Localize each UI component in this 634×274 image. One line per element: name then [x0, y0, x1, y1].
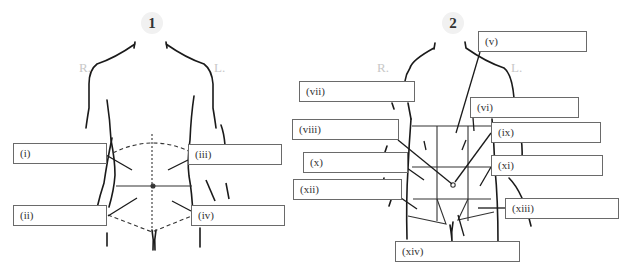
label-xii: (xii): [300, 183, 319, 195]
label-box-vi[interactable]: (vi): [470, 97, 579, 118]
label-box-x[interactable]: (x): [303, 152, 408, 173]
label-viii: (viii): [299, 123, 321, 135]
label-box-vii[interactable]: (vii): [299, 81, 415, 102]
figure-2-right-side-label: R.: [377, 60, 389, 76]
label-xiv: (xiv): [402, 245, 423, 257]
figure-1-quadrant-lines: [108, 134, 194, 232]
label-vii: (vii): [306, 85, 325, 97]
label-box-xi[interactable]: (xi): [491, 155, 603, 176]
figure-1-side-marks: [206, 180, 229, 201]
label-box-iii[interactable]: (iii): [188, 144, 282, 165]
label-iii: (iii): [195, 148, 212, 160]
label-box-viii[interactable]: (viii): [292, 119, 399, 140]
label-vi: (vi): [477, 101, 493, 113]
label-ix: (ix): [498, 126, 514, 138]
figure-2-leader-lines: [398, 52, 505, 236]
label-xiii: (xiii): [512, 202, 534, 214]
label-v: (v): [485, 35, 498, 47]
label-i: (i): [20, 147, 30, 159]
label-box-ii[interactable]: (ii): [13, 205, 107, 226]
figure-2-number-badge: 2: [442, 12, 464, 34]
label-ii: (ii): [20, 209, 33, 221]
label-box-iv[interactable]: (iv): [191, 205, 285, 226]
label-x: (x): [310, 156, 323, 168]
figure-1-number-badge: 1: [141, 12, 163, 34]
label-box-ix[interactable]: (ix): [491, 122, 601, 143]
label-box-v[interactable]: (v): [478, 31, 587, 52]
label-box-xiii[interactable]: (xiii): [505, 198, 619, 219]
label-box-i[interactable]: (i): [13, 143, 107, 164]
figure-2-left-side-label: L.: [511, 60, 522, 76]
figure-2-region-grid: [408, 126, 494, 224]
label-box-xii[interactable]: (xii): [293, 179, 402, 200]
figure-1-right-side-label: R.: [79, 60, 91, 76]
label-iv: (iv): [198, 209, 214, 221]
figure-1-left-side-label: L.: [214, 60, 225, 76]
label-box-xiv[interactable]: (xiv): [395, 241, 520, 262]
label-xi: (xi): [498, 159, 514, 171]
